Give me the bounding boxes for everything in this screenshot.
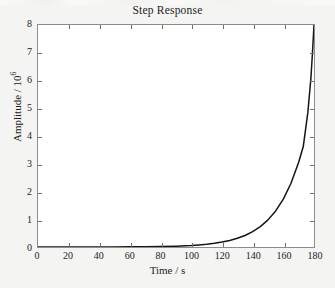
y-tick xyxy=(310,137,314,138)
y-tick-label: 2 xyxy=(2,186,32,197)
x-tick xyxy=(100,243,101,247)
y-tick xyxy=(310,81,314,82)
y-tick xyxy=(38,137,42,138)
x-tick xyxy=(192,25,193,29)
y-tick xyxy=(38,193,42,194)
y-tick xyxy=(310,165,314,166)
step-response-curve xyxy=(38,25,314,247)
x-tick xyxy=(162,243,163,247)
x-tick-label: 100 xyxy=(176,250,206,261)
plot-area xyxy=(37,24,315,248)
y-tick xyxy=(310,221,314,222)
x-tick xyxy=(285,243,286,247)
chart-title: Step Response xyxy=(0,4,335,16)
y-tick xyxy=(38,221,42,222)
y-tick-label: 1 xyxy=(2,214,32,225)
x-tick-label: 20 xyxy=(53,250,83,261)
y-tick xyxy=(38,165,42,166)
x-tick xyxy=(131,243,132,247)
y-tick xyxy=(38,53,42,54)
x-tick-label: 140 xyxy=(238,250,268,261)
x-tick xyxy=(100,25,101,29)
x-tick-label: 160 xyxy=(269,250,299,261)
x-tick xyxy=(254,25,255,29)
x-tick xyxy=(223,243,224,247)
x-tick-label: 80 xyxy=(146,250,176,261)
y-tick xyxy=(310,53,314,54)
x-tick-label: 60 xyxy=(115,250,145,261)
x-tick xyxy=(285,25,286,29)
x-tick-label: 120 xyxy=(207,250,237,261)
x-tick xyxy=(69,243,70,247)
x-tick xyxy=(69,25,70,29)
y-tick xyxy=(38,81,42,82)
figure-canvas: Step Response 020406080100120140160180 0… xyxy=(0,0,335,288)
y-tick xyxy=(310,193,314,194)
x-tick xyxy=(254,243,255,247)
x-tick-label: 40 xyxy=(84,250,114,261)
x-axis-title: Time / s xyxy=(0,264,335,276)
y-tick xyxy=(38,109,42,110)
y-tick xyxy=(310,109,314,110)
x-tick xyxy=(131,25,132,29)
y-axis-title: Amplitude / 106 xyxy=(9,47,23,167)
y-tick-label: 8 xyxy=(2,18,32,29)
x-tick-label: 180 xyxy=(300,250,330,261)
y-tick-label: 0 xyxy=(2,242,32,253)
x-tick xyxy=(223,25,224,29)
y-axis-title-text: Amplitude / 10 xyxy=(11,75,23,142)
y-axis-title-exponent: 6 xyxy=(9,72,18,76)
x-tick xyxy=(192,243,193,247)
x-tick xyxy=(162,25,163,29)
